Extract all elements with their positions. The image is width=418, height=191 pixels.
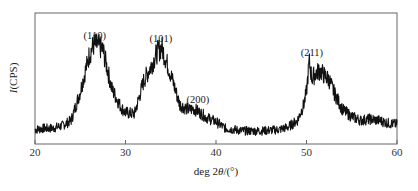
peak-label: (200) <box>187 94 210 106</box>
x-axis-ticks <box>35 140 397 144</box>
peak-annotations: (110)(101)(200)(211) <box>84 30 324 106</box>
xrd-chart: 2030405060 (110)(101)(200)(211) deg 2θ/(… <box>0 0 418 191</box>
x-tick-label: 30 <box>120 146 132 158</box>
peak-label: (211) <box>301 47 324 59</box>
peak-label: (101) <box>149 33 172 45</box>
xrd-series-line <box>35 34 397 136</box>
x-axis-label-prefix: deg 2 <box>194 165 218 177</box>
y-axis-label-rest: (CPS) <box>7 62 20 89</box>
x-tick-label: 40 <box>211 146 223 158</box>
x-tick-label: 50 <box>301 146 313 158</box>
x-tick-label: 60 <box>392 146 404 158</box>
x-axis-label: deg 2θ/(°) <box>194 165 239 178</box>
peak-label: (110) <box>84 30 107 42</box>
y-axis-label: I(CPS) <box>7 62 20 94</box>
x-axis-tick-labels: 2030405060 <box>30 146 404 158</box>
x-tick-label: 20 <box>30 146 42 158</box>
x-axis-label-suffix: /(°) <box>223 165 238 178</box>
